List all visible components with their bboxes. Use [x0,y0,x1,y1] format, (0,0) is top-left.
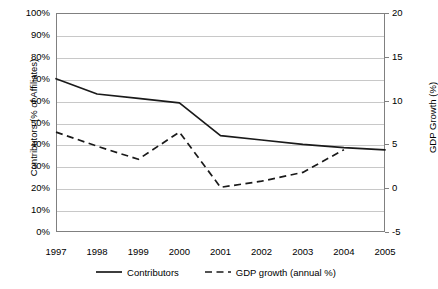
y-tick-label-right: 20 [392,8,432,18]
y-tick-mark-right [385,57,389,58]
y-tick-label-left: 70% [4,74,50,84]
y-tick-mark-right [385,101,389,102]
y-tick-mark-right [385,188,389,189]
y-tick-label-left: 50% [4,118,50,128]
y-tick-label-left: 0% [4,227,50,237]
x-tick-label: 1997 [34,246,78,257]
y-tick-label-right: 15 [392,52,432,62]
y-tick-label-left: 30% [4,161,50,171]
y-tick-label-left: 90% [4,30,50,40]
x-tick-label: 2005 [363,246,407,257]
gridline [57,80,384,81]
legend-swatch-dashed [205,267,231,277]
x-tick-label: 2000 [157,246,201,257]
legend-item-gdp-growth: GDP growth (annual %) [205,267,336,278]
gridline [57,167,384,168]
cutoff-caption [0,283,432,289]
legend-label-gdp-growth: GDP growth (annual %) [236,267,336,278]
y-tick-label-right: 5 [392,139,432,149]
legend-swatch-solid [96,267,122,277]
y-tick-label-right: -5 [392,227,432,237]
gridline [57,102,384,103]
x-tick-label: 2001 [199,246,243,257]
y-tick-mark-right [385,232,389,233]
x-tick-label: 1999 [116,246,160,257]
x-tick-label: 1998 [75,246,119,257]
gridline [57,211,384,212]
gridline [57,189,384,190]
legend-label-contributors: Contributors [127,267,179,278]
gridline [57,58,384,59]
y-tick-mark-right [385,144,389,145]
plot-area [56,13,385,232]
y-tick-label-right: 0 [392,183,432,193]
y-tick-label-left: 80% [4,52,50,62]
x-tick-label: 2003 [281,246,325,257]
gridline [57,36,384,37]
y-tick-label-right: 10 [392,96,432,106]
y-tick-label-left: 10% [4,205,50,215]
x-tick-label: 2002 [240,246,284,257]
legend-item-contributors: Contributors [96,267,179,278]
gridline [57,124,384,125]
gridline [57,145,384,146]
y-tick-label-left: 40% [4,139,50,149]
y-tick-mark-right [385,13,389,14]
y-tick-label-left: 60% [4,96,50,106]
x-tick-label: 2004 [322,246,366,257]
chart-legend: Contributors GDP growth (annual %) [0,264,432,280]
y-tick-label-left: 20% [4,183,50,193]
y-tick-label-left: 100% [4,8,50,18]
